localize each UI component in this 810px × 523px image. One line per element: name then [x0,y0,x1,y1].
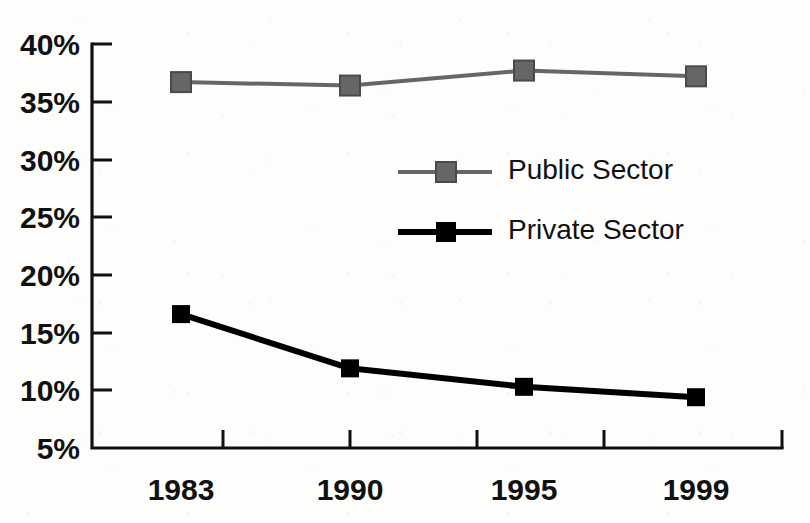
data-point-public-sector-1983[interactable] [171,72,191,92]
data-point-private-sector-1995[interactable] [515,378,533,396]
legend-marker-private-sector [436,222,456,242]
data-point-private-sector-1990[interactable] [341,359,359,377]
y-tick-label-20: 20% [20,259,80,292]
x-tick-labels: 1983 1990 1995 1999 [148,473,730,506]
data-point-public-sector-1990[interactable] [340,76,360,96]
y-tick-label-35: 35% [20,86,80,119]
series-private-sector [172,305,705,406]
data-point-private-sector-1999[interactable] [687,388,705,406]
data-point-private-sector-1983[interactable] [172,305,190,323]
line-chart: 40% 35% 30% 25% 20% 15% 10% 5% 1983 1990… [0,0,810,523]
y-tick-labels: 40% 35% 30% 25% 20% 15% 10% 5% [20,28,80,465]
series-line-public-sector [181,71,696,86]
legend-item-private-sector[interactable]: Private Sector [398,214,684,245]
series-line-private-sector [181,314,696,397]
legend-label-public-sector: Public Sector [508,154,673,185]
legend-item-public-sector[interactable]: Public Sector [398,154,673,185]
x-tick-label-1995: 1995 [491,473,558,506]
legend-marker-public-sector [436,162,456,182]
x-ticks [223,430,604,448]
y-tick-label-40: 40% [20,28,80,61]
y-tick-label-10: 10% [20,374,80,407]
axis-frame [92,44,782,448]
y-ticks [92,102,112,390]
chart-page: 40% 35% 30% 25% 20% 15% 10% 5% 1983 1990… [0,0,810,523]
data-point-public-sector-1995[interactable] [514,61,534,81]
y-tick-label-5: 5% [37,432,80,465]
x-tick-label-1990: 1990 [317,473,384,506]
x-tick-label-1999: 1999 [663,473,730,506]
y-tick-label-30: 30% [20,144,80,177]
y-tick-label-25: 25% [20,201,80,234]
y-tick-label-15: 15% [20,317,80,350]
legend-label-private-sector: Private Sector [508,214,684,245]
series-public-sector [171,61,706,96]
data-point-public-sector-1999[interactable] [686,66,706,86]
x-tick-label-1983: 1983 [148,473,215,506]
chart-legend: Public Sector Private Sector [398,154,684,245]
